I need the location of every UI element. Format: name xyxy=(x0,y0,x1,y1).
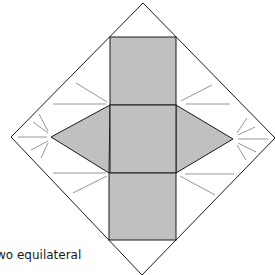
bottom-rectangle xyxy=(109,173,176,240)
left-triangle xyxy=(51,105,110,173)
prism-net-diagram xyxy=(0,0,275,275)
right-triangle xyxy=(176,105,233,173)
top-rectangle xyxy=(110,37,176,105)
middle-square xyxy=(110,105,176,173)
caption-text: wo equilateral xyxy=(0,248,81,262)
